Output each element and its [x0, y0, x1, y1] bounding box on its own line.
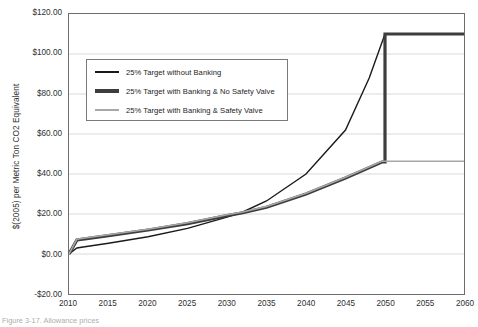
legend-swatch-line-icon [95, 71, 119, 73]
x-axis-tick-label: 2040 [286, 299, 326, 308]
y-axis-tick-label: -$20.00 [6, 290, 62, 299]
legend-label: 25% Target with Banking & Safety Valve [126, 106, 263, 115]
x-axis-tick-label: 2025 [167, 299, 207, 308]
legend-label: 25% Target without Banking [126, 68, 221, 77]
x-axis-tick-label: 2055 [405, 299, 445, 308]
legend-item-banking-no-safety-valve: 25% Target with Banking & No Safety Valv… [95, 84, 283, 98]
x-axis-tick-label: 2010 [48, 299, 88, 308]
x-axis-tick-label: 2045 [326, 299, 366, 308]
legend-item-banking-safety-valve: 25% Target with Banking & Safety Valve [95, 103, 283, 117]
y-axis-tick-label: $120.00 [6, 8, 62, 17]
y-axis-title: $(2005) per Metric Ton CO2 Equivalent [12, 47, 21, 267]
chart-canvas [69, 14, 464, 294]
x-axis-tick-label: 2030 [207, 299, 247, 308]
x-axis-tick-label: 2020 [127, 299, 167, 308]
legend-label: 25% Target with Banking & No Safety Valv… [126, 87, 275, 96]
legend-swatch-line-icon [95, 109, 119, 110]
chart-legend: 25% Target without Banking 25% Target wi… [86, 59, 288, 121]
plot-area [68, 13, 465, 295]
legend-item-without-banking: 25% Target without Banking [95, 65, 283, 79]
x-axis-tick-label: 2060 [445, 299, 478, 308]
x-axis-tick-label: 2035 [247, 299, 287, 308]
allowance-price-figure: $(2005) per Metric Ton CO2 Equivalent $1… [0, 0, 478, 327]
x-axis-tick-label: 2015 [88, 299, 128, 308]
figure-caption: Figure 3-17. Allowance prices [2, 316, 99, 325]
legend-swatch-line-icon [95, 89, 119, 93]
x-axis-tick-label: 2050 [366, 299, 406, 308]
